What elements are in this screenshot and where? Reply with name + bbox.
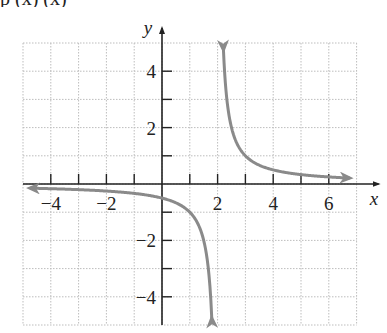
x-tick-label: −2 [96, 193, 116, 214]
x-tick-label: −4 [41, 193, 62, 214]
right-branch-curve [223, 50, 349, 178]
x-tick-label: 2 [213, 193, 223, 214]
x-axis-label: x [369, 188, 379, 209]
y-tick-label: 4 [147, 61, 157, 82]
x-tick-label: 4 [268, 193, 278, 214]
tick-labels: −4−224642−2−4xy [41, 17, 379, 308]
y-tick-label: −2 [136, 230, 156, 251]
y-axis-label: y [142, 17, 153, 38]
x-tick-label: 6 [324, 193, 334, 214]
y-tick-label: −4 [136, 287, 157, 308]
y-tick-label: 2 [147, 118, 157, 139]
function-graph: −4−224642−2−4xy [0, 0, 387, 333]
